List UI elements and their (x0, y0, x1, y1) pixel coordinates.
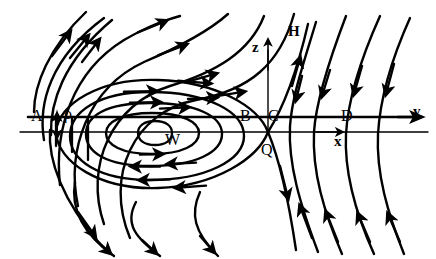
streamline-plot-canvas (0, 0, 436, 259)
streamline-figure: A ρ B C D Q W H z x y (0, 0, 436, 259)
label-point-a: A (31, 108, 43, 124)
label-point-b: B (240, 108, 251, 124)
streamline-lower-4 (195, 192, 218, 256)
label-point-c: C (268, 108, 279, 124)
label-axis-x: x (334, 134, 342, 149)
label-vortex-w: W (165, 132, 180, 148)
streamline-lower-2 (74, 182, 114, 256)
streamline-lower-3 (131, 202, 160, 256)
streamline-right-4 (378, 18, 410, 254)
label-axis-y: y (413, 104, 421, 119)
label-axis-z: z (252, 40, 259, 55)
label-point-d: D (341, 108, 353, 124)
label-rho: ρ (64, 106, 72, 122)
streamline-right-3 (346, 16, 380, 254)
label-field-h: H (288, 24, 300, 39)
label-point-q: Q (261, 142, 273, 158)
